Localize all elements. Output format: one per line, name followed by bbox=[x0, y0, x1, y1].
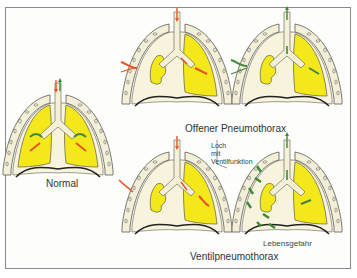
panel-open-inhale bbox=[121, 8, 232, 106]
caption-valve-pneumothorax: Ventilpneumothorax bbox=[190, 251, 278, 262]
caption-open-pneumothorax: Offener Pneumothorax bbox=[185, 123, 286, 134]
label-hole-line1: Loch bbox=[211, 142, 253, 150]
caption-normal: Normal bbox=[46, 178, 78, 189]
label-hole-line3: Ventilfunktion bbox=[211, 158, 253, 166]
panel-normal bbox=[3, 78, 113, 177]
label-hole-line2: mit bbox=[211, 150, 253, 158]
label-hole-valve: Loch mit Ventilfunktion bbox=[211, 142, 253, 166]
pneumothorax-diagram bbox=[0, 0, 357, 278]
label-danger: Lebensgefahr bbox=[263, 240, 312, 248]
panel-open-exhale bbox=[231, 6, 342, 106]
